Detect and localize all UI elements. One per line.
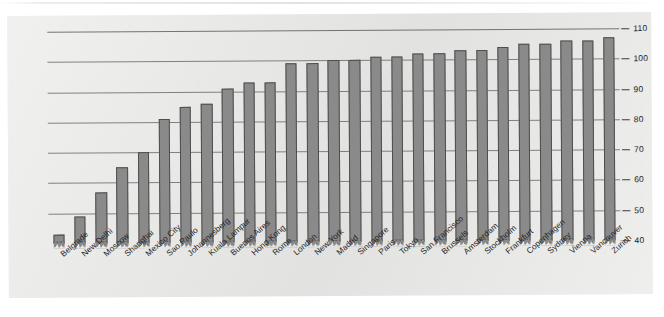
plot-area: 405060708090100110 BelgradeNew DelhiMosc… <box>47 28 620 243</box>
bar-kuala-lampur <box>201 103 213 242</box>
y-tick-label-110: 110 <box>633 24 647 33</box>
bar-madrid <box>328 60 341 242</box>
gridlines <box>47 28 619 31</box>
bar-new-york <box>307 63 320 242</box>
y-tick-label-90: 90 <box>634 85 644 94</box>
bar-london <box>285 64 298 243</box>
y-tick-label-100: 100 <box>633 54 648 63</box>
y-tick-label-70: 70 <box>634 145 644 154</box>
bar-sydney <box>539 44 552 241</box>
bar-johannesberg <box>180 107 192 243</box>
bar-belgrade <box>53 235 64 244</box>
bar-tokyo <box>391 57 404 242</box>
chart-panel: 405060708090100110 BelgradeNew DelhiMosc… <box>7 12 653 298</box>
bar-vancouver <box>582 41 595 241</box>
bar-san-francisco <box>412 54 425 242</box>
y-tick-mark-70 <box>622 149 630 150</box>
page-top-edge <box>0 2 664 4</box>
y-tick-label-60: 60 <box>634 176 644 185</box>
bar-zurich <box>603 37 616 240</box>
bar-amsterdam <box>455 50 468 241</box>
bar-singapore <box>349 60 362 242</box>
bar-sao-paulo <box>159 119 171 243</box>
bar-frankfurt <box>497 47 510 241</box>
y-tick-mark-50 <box>622 210 630 211</box>
bar-vienna <box>561 41 574 241</box>
y-tick-mark-100 <box>621 58 629 59</box>
bar-stockholm <box>476 50 489 241</box>
bar-copenhagen <box>518 44 531 241</box>
y-tick-mark-90 <box>622 89 630 90</box>
bar-brussels <box>434 54 447 242</box>
chart-screenshot: 405060708090100110 BelgradeNew DelhiMosc… <box>0 0 664 317</box>
y-tick-mark-60 <box>622 180 630 181</box>
y-tick-label-40: 40 <box>635 236 645 245</box>
y-tick-mark-80 <box>622 119 630 120</box>
gridline-110 <box>47 28 619 32</box>
y-tick-label-80: 80 <box>634 115 644 124</box>
y-tick-label-50: 50 <box>634 206 644 215</box>
bar-paris <box>370 57 383 242</box>
y-tick-mark-110 <box>621 28 629 29</box>
